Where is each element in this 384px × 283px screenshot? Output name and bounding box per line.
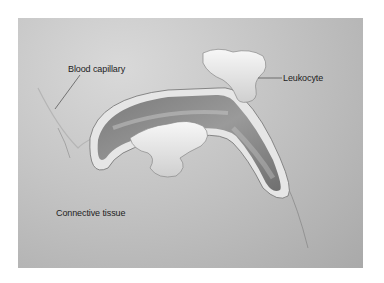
capillary-artwork [18,18,363,268]
connective-tissue-label: Connective tissue [56,208,125,218]
blood-capillary-leader-line [55,75,80,109]
capillary-illustration: Blood capillary Leukocyte Connective tis… [18,18,363,268]
leukocyte-label: Leukocyte [283,73,323,83]
blood-capillary-label: Blood capillary [68,64,125,74]
